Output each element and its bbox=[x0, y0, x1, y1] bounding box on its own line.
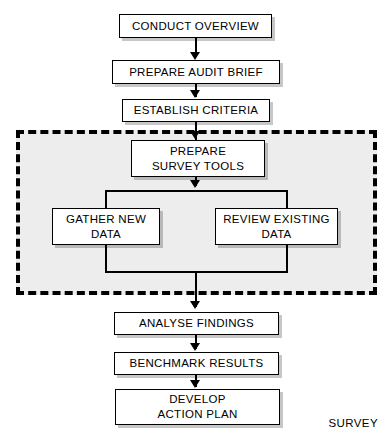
edge-split-left-drop bbox=[105, 190, 107, 210]
arrowhead-conduct-to-brief bbox=[190, 52, 200, 60]
edge-split-bar bbox=[105, 190, 288, 192]
node-gather-new-data[interactable]: GATHER NEW DATA bbox=[52, 208, 160, 245]
node-develop-action-plan[interactable]: DEVELOP ACTION PLAN bbox=[115, 389, 280, 425]
edge-merge-right-drop bbox=[286, 245, 288, 273]
arrowhead-criteria-to-tools bbox=[190, 131, 200, 139]
arrowhead-brief-to-criteria bbox=[190, 90, 200, 98]
node-establish-criteria[interactable]: ESTABLISH CRITERIA bbox=[122, 99, 270, 122]
node-prepare-survey-tools[interactable]: PREPARE SURVEY TOOLS bbox=[131, 140, 265, 177]
node-conduct-overview[interactable]: CONDUCT OVERVIEW bbox=[119, 14, 272, 38]
node-review-existing-data[interactable]: REVIEW EXISTING DATA bbox=[215, 208, 338, 245]
node-prepare-audit-brief[interactable]: PREPARE AUDIT BRIEF bbox=[112, 60, 280, 84]
arrowhead-tools-split bbox=[190, 180, 200, 188]
arrowhead-benchmark-to-develop bbox=[190, 380, 200, 388]
arrowhead-merge-to-analyse bbox=[190, 301, 200, 309]
edge-split-right-drop bbox=[286, 190, 288, 210]
node-benchmark-results[interactable]: BENCHMARK RESULTS bbox=[114, 352, 279, 375]
edge-merge-left-drop bbox=[105, 245, 107, 273]
survey-group-label: SURVEY bbox=[329, 417, 378, 429]
arrowhead-analyse-to-benchmark bbox=[190, 343, 200, 351]
node-analyse-findings[interactable]: ANALYSE FINDINGS bbox=[114, 312, 279, 335]
flowchart-canvas: SURVEY CONDUCT OVERVIEW PREPARE AUDIT BR… bbox=[0, 0, 392, 443]
